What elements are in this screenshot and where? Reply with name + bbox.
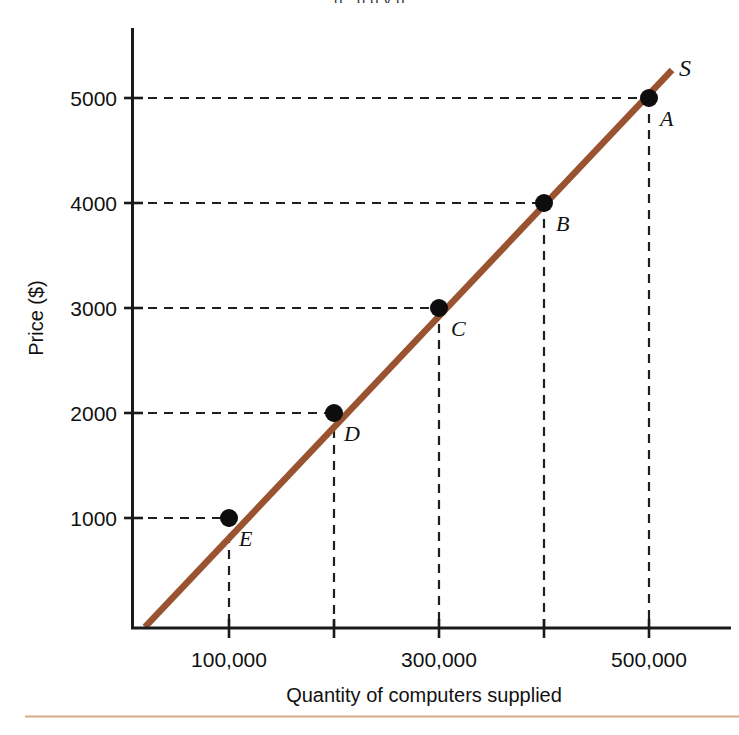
- data-point-e[interactable]: [220, 509, 238, 527]
- data-point-labels: A B C D E: [238, 106, 674, 551]
- horizontal-guide-lines: [132, 98, 649, 518]
- y-tick-label-2000: 2000: [70, 402, 117, 425]
- x-axis-title: Quantity of computers supplied: [286, 684, 562, 706]
- data-point-label-e: E: [238, 526, 253, 551]
- supply-curve-chart: 5000 4000 3000 2000 1000 100,000 300,000…: [0, 0, 739, 735]
- data-point-label-c: C: [451, 316, 466, 341]
- data-point-d[interactable]: [325, 404, 343, 422]
- x-tick-label-100000: 100,000: [191, 648, 267, 671]
- data-point-a[interactable]: [640, 89, 658, 107]
- x-tick-label-300000: 300,000: [401, 648, 477, 671]
- supply-curve-series-label: S: [679, 55, 691, 81]
- vertical-guide-lines: [229, 98, 649, 628]
- y-tick-label-5000: 5000: [70, 87, 117, 110]
- y-axis-title: Price ($): [25, 280, 47, 356]
- data-point-label-d: D: [343, 421, 360, 446]
- x-tick-label-500000: 500,000: [611, 648, 687, 671]
- data-point-label-a: A: [658, 106, 674, 131]
- y-tick-label-3000: 3000: [70, 297, 117, 320]
- data-point-c[interactable]: [430, 299, 448, 317]
- data-point-b[interactable]: [535, 194, 553, 212]
- data-point-label-b: B: [556, 211, 569, 236]
- y-tick-labels: 5000 4000 3000 2000 1000: [70, 87, 117, 530]
- x-tick-labels: 100,000 300,000 500,000: [191, 648, 687, 671]
- y-tick-label-4000: 4000: [70, 192, 117, 215]
- supply-curve-line: [145, 70, 672, 627]
- y-tick-label-1000: 1000: [70, 507, 117, 530]
- supply-curve-figure: g , p p y p: [0, 0, 739, 735]
